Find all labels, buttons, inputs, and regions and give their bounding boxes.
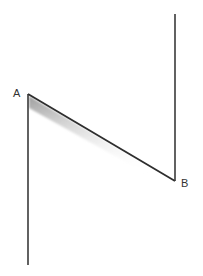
- diagonal-shadow: [29, 96, 175, 188]
- diagonal-line-ab: [28, 94, 175, 181]
- z-diagram: A B: [0, 0, 203, 276]
- label-b: B: [181, 177, 188, 189]
- label-a: A: [13, 87, 21, 99]
